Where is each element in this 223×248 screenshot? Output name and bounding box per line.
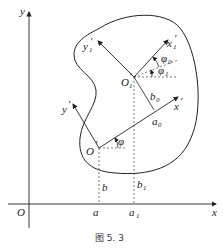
phi-label: φ — [118, 135, 124, 147]
svg-text:′: ′ — [174, 32, 177, 44]
a-label: a — [93, 206, 99, 218]
svg-text:1: 1 — [173, 43, 177, 51]
x1-prime-label: x — [166, 37, 172, 49]
y-axis-label: y — [19, 5, 25, 17]
svg-text:1: 1 — [136, 212, 140, 220]
svg-text:0: 0 — [168, 58, 172, 66]
phi0-label: φ — [161, 52, 167, 64]
b-label: b — [102, 181, 108, 193]
svg-text:1: 1 — [165, 70, 169, 78]
a1-label: a — [129, 206, 135, 218]
y-prime-label: y — [61, 103, 67, 115]
svg-text:′: ′ — [129, 70, 132, 82]
x-prime-label: x — [173, 100, 179, 112]
y1-prime-label: y — [82, 40, 88, 52]
svg-text:0: 0 — [158, 121, 162, 129]
origin-label: O — [17, 206, 25, 218]
diagram: y x O a a 1 b b 1 O ′ φ y ′ x ′ a 0 b 0 … — [0, 0, 223, 248]
svg-text:0: 0 — [156, 96, 160, 104]
svg-text:1: 1 — [129, 82, 133, 90]
figure-caption: 图 5. 3 — [95, 233, 124, 243]
svg-text:1: 1 — [89, 46, 93, 54]
x-axis-label: x — [211, 206, 217, 218]
svg-text:′: ′ — [90, 35, 93, 47]
o-prime-label: O — [86, 145, 94, 157]
svg-text:′: ′ — [180, 95, 183, 107]
x-prime-axis — [99, 97, 178, 148]
svg-text:′: ′ — [95, 138, 98, 150]
svg-text:′: ′ — [68, 98, 71, 110]
phi1-label: φ — [158, 64, 164, 76]
o1-prime-label: O — [121, 76, 129, 88]
svg-text:1: 1 — [143, 184, 147, 192]
phi1-arc — [151, 70, 152, 77]
